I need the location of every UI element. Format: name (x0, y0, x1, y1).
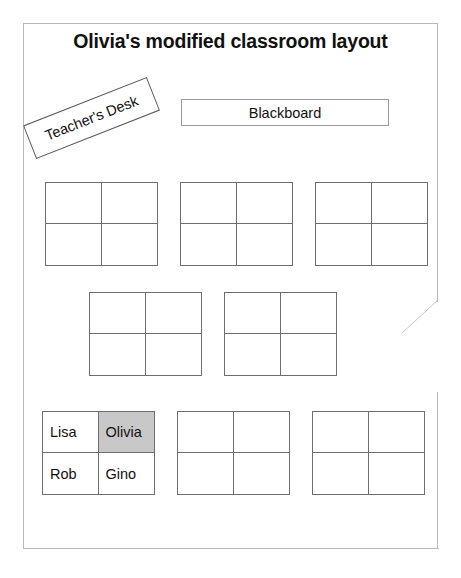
desk-seat-empty[interactable] (225, 334, 281, 375)
desk-group-1[interactable] (45, 182, 158, 266)
blackboard: Blackboard (181, 99, 389, 126)
desk-seat-empty[interactable] (313, 453, 369, 494)
classroom-layout-diagram: Olivia's modified classroom layout Teach… (0, 0, 461, 578)
desk-seat-empty[interactable] (90, 334, 146, 375)
desk-seat-empty[interactable] (46, 183, 102, 224)
desk-seat-empty[interactable] (369, 453, 425, 494)
desk-seat-empty[interactable] (46, 224, 102, 265)
desk-group-5[interactable] (224, 292, 337, 376)
desk-seat-empty[interactable] (369, 412, 425, 453)
desk-seat-empty[interactable] (178, 412, 234, 453)
desk-seat-olivia[interactable]: Olivia (99, 412, 155, 453)
desk-seat-empty[interactable] (181, 224, 237, 265)
desk-seat-empty[interactable] (178, 453, 234, 494)
desk-group-4[interactable] (89, 292, 202, 376)
desk-group-6[interactable]: LisaOliviaRobGino (42, 411, 155, 495)
desk-group-3[interactable] (315, 182, 428, 266)
desk-seat-empty[interactable] (146, 334, 202, 375)
desk-seat-lisa[interactable]: Lisa (43, 412, 99, 453)
page-border-right-upper (437, 23, 438, 302)
desk-group-2[interactable] (180, 182, 293, 266)
page-border-left (23, 23, 24, 549)
desk-seat-empty[interactable] (146, 293, 202, 334)
page-border-top (23, 23, 438, 24)
desk-seat-empty[interactable] (234, 412, 290, 453)
desk-seat-empty[interactable] (316, 224, 372, 265)
desk-seat-empty[interactable] (281, 334, 337, 375)
desk-group-7[interactable] (177, 411, 290, 495)
desk-seat-empty[interactable] (90, 293, 146, 334)
desk-seat-empty[interactable] (181, 183, 237, 224)
desk-seat-empty[interactable] (372, 183, 428, 224)
desk-seat-empty[interactable] (102, 183, 158, 224)
page-title: Olivia's modified classroom layout (23, 30, 438, 53)
desk-group-8[interactable] (312, 411, 425, 495)
desk-seat-empty[interactable] (234, 453, 290, 494)
desk-seat-empty[interactable] (102, 224, 158, 265)
desk-seat-empty[interactable] (225, 293, 281, 334)
page-border-bottom (23, 548, 439, 549)
desk-seat-empty[interactable] (372, 224, 428, 265)
desk-seat-empty[interactable] (281, 293, 337, 334)
desk-seat-gino[interactable]: Gino (99, 453, 155, 494)
desk-seat-empty[interactable] (237, 224, 293, 265)
blackboard-label: Blackboard (249, 105, 322, 121)
desk-seat-empty[interactable] (316, 183, 372, 224)
page-border-right-lower (437, 392, 438, 549)
desk-seat-empty[interactable] (237, 183, 293, 224)
desk-seat-empty[interactable] (313, 412, 369, 453)
desk-seat-rob[interactable]: Rob (43, 453, 99, 494)
